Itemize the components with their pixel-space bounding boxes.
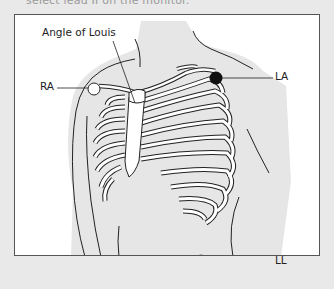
caption-text: select lead II on the monitor.: [26, 0, 189, 7]
la-electrode: [210, 72, 223, 85]
chest-illustration: [15, 15, 320, 256]
la-label: LA: [275, 70, 288, 82]
ra-electrode: [88, 83, 100, 95]
ra-label: RA: [40, 80, 54, 92]
angle-of-louis-label: Angle of Louis: [42, 26, 116, 38]
diagram-frame: [14, 14, 320, 256]
ll-label: LL: [275, 254, 287, 266]
